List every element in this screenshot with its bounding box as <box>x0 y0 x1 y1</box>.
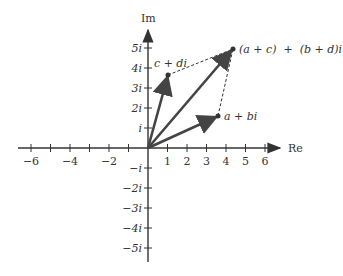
svg-text:6: 6 <box>262 155 269 168</box>
svg-text:2: 2 <box>184 155 191 168</box>
svg-text:−2: −2 <box>101 155 117 168</box>
x-tick-labels: −6 −4 −2 1 2 3 4 5 6 <box>23 155 269 168</box>
svg-text:5: 5 <box>242 155 249 168</box>
svg-text:2i: 2i <box>130 102 142 115</box>
svg-text:3i: 3i <box>131 82 142 95</box>
svg-text:3: 3 <box>203 155 210 168</box>
svg-text:−5i: −5i <box>122 242 142 255</box>
svg-text:4i: 4i <box>130 62 142 75</box>
x-axis-label: Re <box>288 142 303 155</box>
svg-text:−6: −6 <box>23 155 39 168</box>
complex-plane-diagram: Im Re −6 −4 −2 1 2 3 4 5 6 i 2i 3i 4i 5i… <box>0 0 343 276</box>
svg-text:i: i <box>138 122 142 135</box>
y-axis-label: Im <box>141 12 156 25</box>
svg-text:1: 1 <box>164 155 171 168</box>
svg-text:5i: 5i <box>131 42 142 55</box>
svg-text:4: 4 <box>223 155 230 168</box>
svg-text:−4i: −4i <box>122 222 142 235</box>
svg-text:−2i: −2i <box>122 182 142 195</box>
label-c-plus-di: c + di <box>154 57 187 70</box>
svg-text:−i: −i <box>129 162 142 175</box>
label-sum: (a + c) + (b + d)i <box>239 43 342 56</box>
label-a-plus-bi: a + bi <box>224 110 257 123</box>
svg-text:−3i: −3i <box>122 202 142 215</box>
svg-text:−4: −4 <box>62 155 78 168</box>
vector-a-plus-bi <box>148 114 221 149</box>
